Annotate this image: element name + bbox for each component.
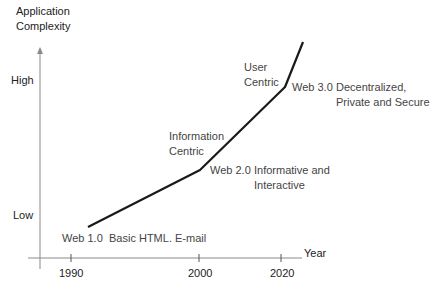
x-tick-label-1990: 1990	[59, 266, 83, 281]
y-axis-title-line2: Complexity	[16, 19, 70, 34]
web2-label: Web 2.0	[210, 163, 251, 178]
web3-transition-line1: User	[244, 60, 267, 75]
web3-transition-line2: Centric	[244, 75, 279, 90]
web2-description-line2: Interactive	[254, 178, 305, 193]
web1-label: Web 1.0	[62, 231, 103, 246]
x-tick-label-2020: 2020	[270, 266, 294, 281]
y-axis-high-label: High	[11, 73, 34, 88]
web2-transition-line1: Information	[169, 129, 224, 144]
y-axis-title-line1: Application	[16, 4, 70, 19]
x-axis-title: Year	[304, 246, 326, 261]
x-tick-label-2000: 2000	[188, 266, 212, 281]
diagram-canvas	[0, 0, 431, 297]
web1-description: Basic HTML. E-mail	[109, 231, 206, 246]
y-axis-arrow-icon	[37, 47, 43, 54]
web2-description-line1: Informative and	[254, 163, 330, 178]
web3-description-line1: Decentralized,	[336, 80, 406, 95]
web3-description-line2: Private and Secure	[336, 95, 430, 110]
web3-label: Web 3.0	[292, 80, 333, 95]
web2-transition-line2: Centric	[169, 144, 204, 159]
y-axis-low-label: Low	[13, 208, 33, 223]
